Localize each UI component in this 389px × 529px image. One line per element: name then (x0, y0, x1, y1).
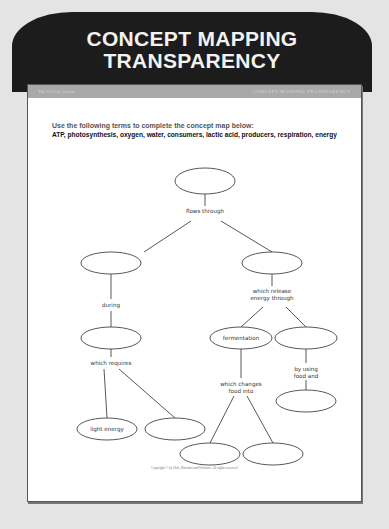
link-by-using-2: food and (294, 373, 319, 380)
link-which-requires: which requires (91, 360, 132, 367)
node-top (175, 168, 235, 194)
link-which-release-2: energy through (250, 295, 293, 302)
link-during: during (102, 302, 120, 309)
node-ferm-out-2 (243, 443, 303, 465)
node-ferm-out-1 (180, 443, 240, 465)
node-right-2 (275, 327, 337, 349)
node-right-3 (276, 390, 336, 412)
link-which-changes-2: food into (229, 388, 254, 395)
node-left-1 (81, 252, 141, 274)
link-flows-through: flows through (186, 208, 224, 215)
banner-title: CONCEPT MAPPING TRANSPARENCY (12, 28, 372, 72)
node-label-fermentation: fermentation (223, 335, 259, 341)
title-line-2: TRANSPARENCY (12, 50, 372, 72)
title-line-1: CONCEPT MAPPING (12, 28, 372, 50)
concept-map (28, 85, 361, 501)
node-label-light-energy: light energy (90, 426, 124, 432)
link-which-release-1: which release (253, 288, 291, 295)
worksheet-page: The Cell in Action CONCEPT MAPPING TRANS… (27, 84, 362, 502)
copyright-notice: Copyright © by Holt, Rinehart and Winsto… (28, 466, 361, 470)
link-which-changes-1: which changes (220, 381, 262, 388)
title-banner: CONCEPT MAPPING TRANSPARENCY (12, 12, 372, 92)
node-left-2 (81, 327, 141, 349)
node-left-3 (145, 418, 205, 440)
link-by-using-1: by using (294, 366, 318, 373)
node-right-1 (242, 252, 302, 274)
